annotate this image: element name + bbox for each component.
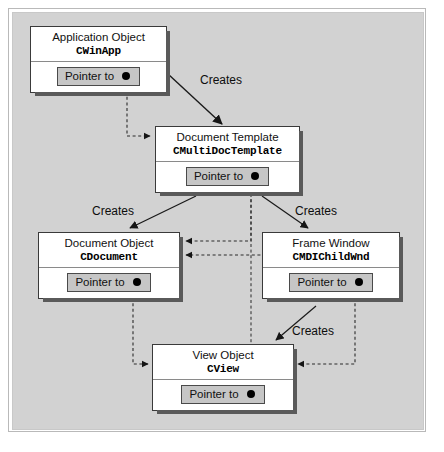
pointer-label: Pointer to bbox=[65, 69, 114, 83]
node-class-name: CWinApp bbox=[31, 44, 166, 58]
node-class-name: CMultiDocTemplate bbox=[156, 144, 299, 158]
edge-label-creates-template-to-frame: Creates bbox=[295, 204, 337, 218]
node-document-object[interactable]: Document Object CDocument Pointer to bbox=[38, 232, 180, 299]
node-application-object[interactable]: Application Object CWinApp Pointer to bbox=[30, 26, 167, 93]
diagram-root: Application Object CWinApp Pointer to Do… bbox=[0, 0, 444, 452]
pointer-slot[interactable]: Pointer to bbox=[181, 385, 264, 404]
node-body: Pointer to bbox=[31, 62, 166, 92]
filled-circle-icon bbox=[247, 390, 255, 398]
node-header: Application Object CWinApp bbox=[31, 27, 166, 62]
node-document-template[interactable]: Document Template CMultiDocTemplate Poin… bbox=[155, 126, 300, 193]
node-class-name: CDocument bbox=[39, 250, 179, 264]
pointer-slot[interactable]: Pointer to bbox=[186, 167, 269, 186]
filled-circle-icon bbox=[133, 278, 141, 286]
node-title: Document Template bbox=[156, 131, 299, 144]
pointer-label: Pointer to bbox=[189, 387, 238, 401]
node-header: Document Template CMultiDocTemplate bbox=[156, 127, 299, 162]
pointer-slot[interactable]: Pointer to bbox=[67, 273, 150, 292]
node-frame-window[interactable]: Frame Window CMDIChildWnd Pointer to bbox=[262, 232, 400, 299]
node-view-object[interactable]: View Object CView Pointer to bbox=[152, 344, 294, 411]
edge-label-creates-template-to-document: Creates bbox=[92, 204, 134, 218]
node-class-name: CMDIChildWnd bbox=[263, 250, 399, 264]
node-class-name: CView bbox=[153, 362, 293, 376]
node-header: View Object CView bbox=[153, 345, 293, 380]
node-body: Pointer to bbox=[263, 268, 399, 298]
pointer-label: Pointer to bbox=[194, 169, 243, 183]
node-title: View Object bbox=[153, 349, 293, 362]
pointer-label: Pointer to bbox=[297, 275, 346, 289]
node-title: Document Object bbox=[39, 237, 179, 250]
pointer-label: Pointer to bbox=[75, 275, 124, 289]
node-title: Frame Window bbox=[263, 237, 399, 250]
pointer-slot[interactable]: Pointer to bbox=[57, 67, 140, 86]
edge-label-creates-app-to-template: Creates bbox=[200, 73, 242, 87]
node-title: Application Object bbox=[31, 31, 166, 44]
filled-circle-icon bbox=[122, 72, 130, 80]
node-header: Frame Window CMDIChildWnd bbox=[263, 233, 399, 268]
node-header: Document Object CDocument bbox=[39, 233, 179, 268]
node-body: Pointer to bbox=[156, 162, 299, 192]
pointer-slot[interactable]: Pointer to bbox=[289, 273, 372, 292]
node-body: Pointer to bbox=[153, 380, 293, 410]
edge-label-creates-frame-to-view: Creates bbox=[292, 324, 334, 338]
node-body: Pointer to bbox=[39, 268, 179, 298]
filled-circle-icon bbox=[355, 278, 363, 286]
filled-circle-icon bbox=[251, 172, 259, 180]
